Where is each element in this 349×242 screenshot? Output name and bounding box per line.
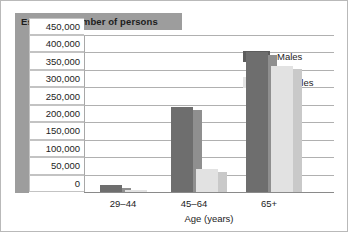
y-axis-tick-label: 100,000 — [46, 143, 80, 154]
y-axis-tick-label: 400,000 — [46, 38, 80, 49]
bar-side-female — [218, 172, 227, 192]
gridline — [84, 35, 334, 36]
y-axis-tick: 50,000 — [29, 157, 84, 174]
y-axis-tick-label: 300,000 — [46, 73, 80, 84]
bar-female — [196, 169, 218, 192]
y-axis-tick: 450,000 — [29, 18, 84, 35]
y-axis-title-band — [15, 13, 29, 193]
bar-female — [271, 66, 293, 192]
bar-side-female — [293, 69, 302, 192]
bar-female — [125, 190, 147, 192]
y-axis-tick-label: 350,000 — [46, 56, 80, 67]
y-axis-tick-label: 150,000 — [46, 125, 80, 136]
gridline — [84, 192, 334, 193]
x-axis-title: Age (years) — [84, 213, 334, 224]
legend-label-males: Males — [277, 51, 302, 62]
y-axis-tick: 250,000 — [29, 87, 84, 104]
y-axis-tick-label: 250,000 — [46, 91, 80, 102]
x-axis-tick-label: 45–64 — [164, 198, 224, 209]
chart-figure: Estimated number of persons 450,000400,0… — [0, 0, 349, 242]
y-axis-tick: 100,000 — [29, 140, 84, 157]
y-axis-tick: 350,000 — [29, 52, 84, 69]
y-axis-tick: 200,000 — [29, 105, 84, 122]
y-axis-tick: 300,000 — [29, 70, 84, 87]
y-axis-tick-label: 200,000 — [46, 108, 80, 119]
y-axis-tick: 0 — [29, 175, 84, 192]
y-axis-tick-label: 450,000 — [46, 21, 80, 32]
bar-male — [100, 185, 122, 192]
y-axis-tick: 400,000 — [29, 35, 84, 52]
x-axis-tick-label: 65+ — [239, 198, 299, 209]
y-axis-tick: 150,000 — [29, 122, 84, 139]
bar-male — [171, 107, 193, 192]
bar-male — [246, 52, 268, 192]
y-axis-tick-label: 50,000 — [51, 160, 80, 171]
y-axis-tick-label: 0 — [75, 178, 80, 189]
x-axis-tick-label: 29–44 — [93, 198, 153, 209]
